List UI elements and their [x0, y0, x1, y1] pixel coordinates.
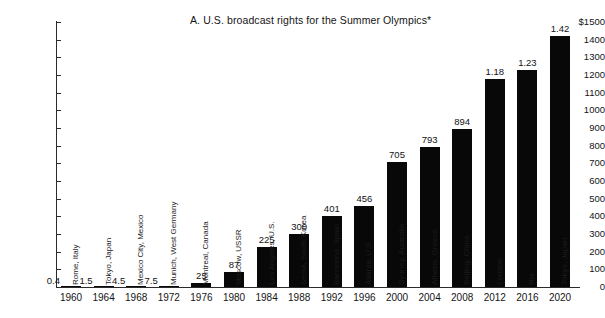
bar-value-label: 1.23	[512, 58, 542, 68]
bar[interactable]	[94, 286, 114, 287]
bar-value-label: 1.42	[545, 24, 575, 34]
bar-group: 1.23Rio	[515, 22, 545, 287]
bar-city-label: Mexico City, Mexico	[137, 214, 145, 285]
bar-group: 300Seoul, South Korea	[287, 22, 317, 287]
x-axis-tick-label: 1968	[119, 292, 153, 303]
bar-city-label: Seoul, South Korea	[300, 216, 308, 285]
bar-city-label: Montreal, Canada	[202, 221, 210, 285]
bar-city-label: Barcelona, Spain	[333, 224, 341, 285]
bar-city-label: Beijing, China	[463, 236, 471, 285]
bar-value-label: 894	[447, 117, 477, 127]
x-axis-tick-label: 1992	[315, 292, 349, 303]
x-axis-tick-label: 1988	[282, 292, 316, 303]
x-axis-line	[56, 287, 580, 288]
bar-group: 793Athens, Greece	[418, 22, 448, 287]
x-axis-tick-label: 1984	[250, 292, 284, 303]
bar-group: 705Sydney, Australia	[385, 22, 415, 287]
y-axis-tick	[57, 287, 61, 288]
bar-city-label: Sydney, Australia	[398, 224, 406, 285]
bar-city-label: Tokyo, Japan	[561, 238, 569, 285]
x-axis-tick-label: 1976	[184, 292, 218, 303]
bar-group: 4.5Mexico City, Mexico	[124, 22, 154, 287]
bar-value-label: 793	[415, 135, 445, 145]
bar-group: 25Montreal, Canada	[189, 22, 219, 287]
bar-value-label: 4.5	[103, 276, 125, 286]
bar-value-label: 7.5	[136, 276, 158, 286]
bar-group: 7.5Munich, West Germany	[157, 22, 187, 287]
x-axis-tick-label: 2004	[413, 292, 447, 303]
x-axis-tick-label: 2012	[478, 292, 512, 303]
bar-group: 1.5Tokyo, Japan	[92, 22, 122, 287]
x-axis-tick-label: 2016	[510, 292, 544, 303]
bar-group: 894Beijing, China	[450, 22, 480, 287]
x-axis-tick-label: 2020	[543, 292, 577, 303]
bar-group: 401Barcelona, Spain	[320, 22, 350, 287]
bar[interactable]	[61, 286, 81, 287]
bar-value-label: 0.4	[38, 276, 60, 286]
bar-city-label: Los Angeles, U.S.	[268, 221, 276, 285]
bar-group: 225Los Angeles, U.S.	[255, 22, 285, 287]
bar[interactable]	[159, 286, 179, 287]
bar[interactable]	[517, 70, 537, 287]
bar-group: 0.4Rome, Italy	[59, 22, 89, 287]
bar-group: 456Atlanta, U.S.	[352, 22, 382, 287]
x-axis-tick-label: 1960	[54, 292, 88, 303]
y-axis-line	[56, 21, 57, 288]
bar-value-label: 1.18	[480, 67, 510, 77]
bar-value-label: 456	[349, 194, 379, 204]
chart-container: A. U.S. broadcast rights for the Summer …	[0, 0, 605, 318]
bar-city-label: Athens, Greece	[431, 229, 439, 285]
x-axis-tick-label: 1972	[152, 292, 186, 303]
x-axis-tick-label: 2000	[380, 292, 414, 303]
bar-value-label: 705	[382, 150, 412, 160]
x-axis-tick-label: 1980	[217, 292, 251, 303]
bar-value-label: 1.5	[71, 276, 93, 286]
bar-city-label: London	[496, 258, 504, 285]
bar-group: 1.42Tokyo, Japan	[548, 22, 578, 287]
bar-city-label: Munich, West Germany	[170, 202, 178, 285]
bar-group: 87Moscow, USSR	[222, 22, 252, 287]
bar-city-label: Atlanta, U.S.	[365, 240, 373, 285]
bar-value-label: 401	[317, 204, 347, 214]
bar-group: 1.18London	[483, 22, 513, 287]
x-axis-tick-label: 2008	[445, 292, 479, 303]
bar-city-label: Moscow, USSR	[235, 229, 243, 285]
bar[interactable]	[485, 79, 505, 287]
bar[interactable]	[126, 286, 146, 287]
x-axis-tick-label: 1996	[347, 292, 381, 303]
x-axis-tick-label: 1964	[87, 292, 121, 303]
bar-city-label: Rio	[528, 273, 536, 285]
